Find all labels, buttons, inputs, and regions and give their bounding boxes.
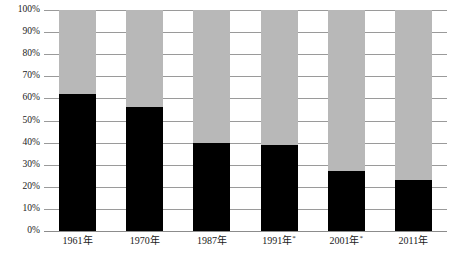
bar-group [126,10,163,231]
bar-segment-lower [328,171,365,231]
x-tick-label-1961年: 1961年 [44,234,111,248]
bar-segment-upper [126,10,163,107]
bar-segment-lower [193,143,230,231]
y-tick-label-0: 0% [0,226,40,236]
bar-group [59,10,96,231]
x-tick-label-2001年: 2001年* [313,234,380,248]
x-tick-label-2011年: 2011年 [380,234,447,248]
bar-segment-lower [59,94,96,231]
y-tick-label-80: 80% [0,49,40,59]
bar-segment-lower [395,180,432,231]
stacked-bar-chart: 0%10%20%30%40%50%60%70%80%90%100% 1961年1… [0,0,455,257]
gridline-50 [44,121,447,122]
y-tick-label-60: 60% [0,94,40,104]
gridline-60 [44,98,447,99]
x-axis: 1961年1970年1987年1991年*2001年*2011年 [44,234,447,254]
gridline-100 [44,10,447,11]
gridline-70 [44,76,447,77]
gridline-20 [44,187,447,188]
x-tick-label-1991年: 1991年* [246,234,313,248]
bar-group [193,10,230,231]
bar-segment-lower [261,145,298,231]
y-tick-label-100: 100% [0,5,40,15]
bar-group [395,10,432,231]
x-tick-label-1987年: 1987年 [178,234,245,248]
bar-segment-lower [126,107,163,231]
y-tick-label-20: 20% [0,182,40,192]
gridline-10 [44,209,447,210]
y-tick-label-10: 10% [0,204,40,214]
bar-group [328,10,365,231]
y-tick-label-40: 40% [0,138,40,148]
bar-segment-upper [395,10,432,180]
gridline-90 [44,32,447,33]
bar-segment-upper [193,10,230,143]
y-tick-label-50: 50% [0,116,40,126]
gridline-0 [44,231,447,232]
y-tick-label-30: 30% [0,160,40,170]
bar-segment-upper [328,10,365,171]
x-tick-label-1970年: 1970年 [111,234,178,248]
gridline-30 [44,165,447,166]
gridline-80 [44,54,447,55]
plot-area [44,10,447,231]
footnote-marker: * [292,234,296,242]
gridline-40 [44,143,447,144]
bar-group [261,10,298,231]
y-tick-label-70: 70% [0,72,40,82]
footnote-marker: * [359,234,363,242]
bar-segment-upper [261,10,298,145]
bar-segment-upper [59,10,96,94]
y-tick-label-90: 90% [0,27,40,37]
